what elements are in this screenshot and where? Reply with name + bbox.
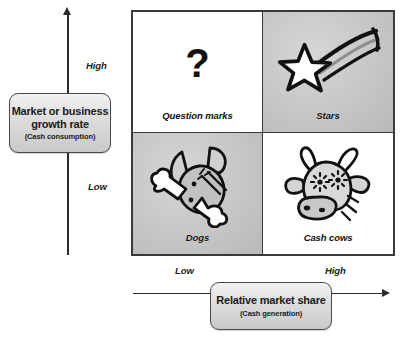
x-axis-label-subtitle: (Cash generation) <box>240 309 302 318</box>
shooting-star-art <box>263 12 393 110</box>
y-axis-arrow-icon <box>63 7 71 15</box>
cow-head-icon <box>276 144 380 226</box>
question-mark-art: ? <box>133 12 262 110</box>
quadrant-cash-cows[interactable]: Cash cows <box>263 133 393 254</box>
quadrant-label-dogs: Dogs <box>186 232 209 243</box>
shooting-star-icon <box>272 23 384 103</box>
quadrant-label-question-marks: Question marks <box>162 110 232 121</box>
y-axis-label-title: Market or business growth rate <box>10 105 110 130</box>
quadrant-question-marks[interactable]: ? Question marks <box>133 12 263 133</box>
x-axis-arrow-icon <box>382 289 390 297</box>
y-axis-tick-low: Low <box>88 181 107 192</box>
quadrant-stars[interactable]: Stars <box>263 12 393 133</box>
quadrant-label-cash-cows: Cash cows <box>304 232 353 243</box>
dog-with-bone-art <box>133 133 262 232</box>
question-mark-icon: ? <box>185 43 209 83</box>
quadrant-dogs[interactable]: Dogs <box>133 133 263 254</box>
y-axis-label-subtitle: (Cash consumption) <box>25 132 96 141</box>
cow-head-art <box>263 133 393 232</box>
x-axis-label-title: Relative market share <box>216 294 326 307</box>
x-axis-label-box: Relative market share (Cash generation) <box>210 282 332 330</box>
y-axis-tick-high: High <box>86 60 107 71</box>
matrix-grid: ? Question marks Stars <box>131 10 395 256</box>
bcg-matrix-diagram: Market or business growth rate (Cash con… <box>0 0 403 337</box>
x-axis-tick-low: Low <box>175 265 194 276</box>
quadrant-label-stars: Stars <box>316 110 339 121</box>
x-axis-tick-high: High <box>325 265 346 276</box>
dog-with-bone-icon <box>142 142 254 228</box>
y-axis-label-box: Market or business growth rate (Cash con… <box>9 93 111 153</box>
